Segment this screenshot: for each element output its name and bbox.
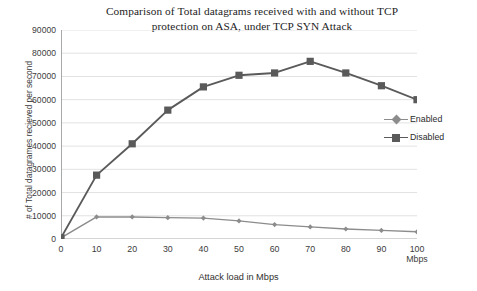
legend-marker-square-icon: [392, 134, 400, 142]
data-point-disabled-50: [235, 72, 242, 79]
data-point-disabled-30: [164, 107, 171, 114]
data-point-enabled-80: [343, 226, 348, 231]
x-tick-label: 60: [255, 244, 295, 254]
x-tick-label: 50: [219, 244, 259, 254]
data-point-enabled-20: [130, 214, 135, 219]
chart-container: Comparison of Total datagrams received w…: [0, 0, 477, 291]
legend-item-disabled[interactable]: Disabled: [384, 129, 474, 145]
legend-marker-diamond-icon: [391, 114, 401, 124]
y-tick-label: 50000: [10, 118, 56, 128]
series-line-disabled: [61, 61, 417, 237]
y-tick-label: 60000: [10, 95, 56, 105]
x-tick-label: 40: [183, 244, 223, 254]
y-tick-label: 30000: [10, 164, 56, 174]
x-tick-label: 100Mbps: [397, 244, 437, 266]
chart-title-line-1: Comparison of Total datagrams received w…: [106, 5, 398, 17]
data-point-enabled-40: [201, 216, 206, 221]
y-tick-label: 0: [10, 234, 56, 244]
y-tick-label: 80000: [10, 48, 56, 58]
chart-legend: EnabledDisabled: [384, 111, 474, 147]
x-tick-label: 90: [361, 244, 401, 254]
data-point-disabled-80: [342, 69, 349, 76]
legend-swatch-enabled-icon: [384, 113, 408, 125]
data-point-enabled-100: [414, 229, 417, 234]
data-point-enabled-70: [308, 224, 313, 229]
x-axis-unit-label: Mbps: [397, 254, 437, 266]
data-point-disabled-70: [307, 58, 314, 65]
legend-label: Enabled: [408, 114, 442, 124]
x-tick-label: 10: [77, 244, 117, 254]
x-tick-label: 30: [148, 244, 188, 254]
data-point-disabled-60: [271, 69, 278, 76]
data-point-enabled-50: [236, 218, 241, 223]
data-point-enabled-60: [272, 222, 277, 227]
data-point-disabled-100: [413, 96, 417, 103]
x-tick-label: 20: [112, 244, 152, 254]
x-axis-tick-labels: 0102030405060708090100Mbps: [61, 244, 417, 272]
x-tick-label: 0: [41, 244, 81, 254]
y-tick-label: 10000: [10, 211, 56, 221]
plot-area: [61, 30, 417, 239]
y-tick-label: 70000: [10, 71, 56, 81]
data-point-disabled-10: [93, 172, 100, 179]
x-tick-label: 80: [326, 244, 366, 254]
y-tick-label: 40000: [10, 141, 56, 151]
y-axis-tick-labels: 9000080000700006000050000400003000020000…: [8, 30, 56, 239]
data-point-disabled-0: [61, 234, 65, 239]
data-point-enabled-90: [379, 228, 384, 233]
y-tick-label: 90000: [10, 25, 56, 35]
plot-svg: [61, 30, 417, 239]
x-axis-title: Attack load in Mbps: [61, 272, 416, 282]
data-point-disabled-90: [378, 82, 385, 89]
data-point-disabled-20: [129, 140, 136, 147]
legend-item-enabled[interactable]: Enabled: [384, 111, 474, 127]
data-point-disabled-40: [200, 83, 207, 90]
legend-swatch-disabled-icon: [384, 131, 408, 143]
legend-label: Disabled: [408, 132, 444, 142]
x-tick-label: 70: [290, 244, 330, 254]
chart-title: Comparison of Total datagrams received w…: [52, 4, 452, 33]
y-tick-label: 20000: [10, 188, 56, 198]
